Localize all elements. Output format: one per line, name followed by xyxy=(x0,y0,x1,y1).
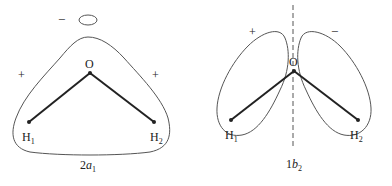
atom-o xyxy=(88,71,92,75)
diagram-2a1: − + + O H1 H2 2a1 xyxy=(13,12,170,174)
atom-label-o: O xyxy=(289,55,298,69)
atom-label-h1: H1 xyxy=(225,128,238,144)
sign-top: − xyxy=(58,12,65,27)
orbital-contour xyxy=(13,37,170,155)
atom-label-h2: H2 xyxy=(350,128,363,144)
sign-right: + xyxy=(152,68,159,82)
atom-h1 xyxy=(229,118,233,122)
atom-label-h2: H2 xyxy=(150,130,163,146)
diagram-1b2: + − O H1 H2 1b2 xyxy=(217,5,371,173)
bond-o-h2 xyxy=(294,71,358,120)
atom-label-h1: H1 xyxy=(22,130,35,146)
bond-o-h1 xyxy=(29,73,90,122)
atom-o xyxy=(292,69,296,73)
bond-o-h1 xyxy=(231,71,294,120)
small-lobe xyxy=(79,15,97,25)
sign-right: − xyxy=(331,24,338,39)
atom-h2 xyxy=(356,118,360,122)
orbital-diagrams: − + + O H1 H2 2a1 + − O H1 H2 1b2 xyxy=(0,0,392,186)
sign-left: + xyxy=(249,25,256,39)
atom-h2 xyxy=(152,120,156,124)
sign-left: + xyxy=(18,68,25,82)
atom-h1 xyxy=(27,120,31,124)
atom-label-o: O xyxy=(85,57,94,71)
caption-2a1: 2a1 xyxy=(80,158,96,174)
caption-1b2: 1b2 xyxy=(286,157,302,173)
